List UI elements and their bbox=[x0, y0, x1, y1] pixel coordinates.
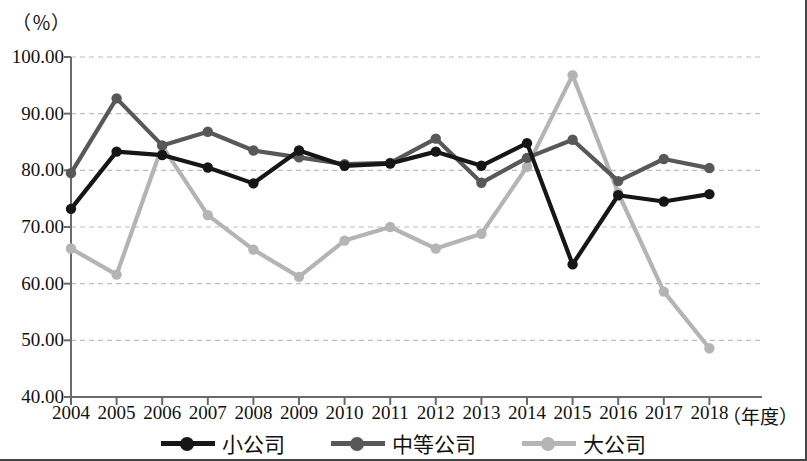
series-layer bbox=[66, 70, 715, 354]
x-tick-label: 2009 bbox=[280, 402, 318, 424]
x-tick-label: 2014 bbox=[508, 402, 546, 424]
x-tick-label: 2008 bbox=[234, 402, 272, 424]
chart-legend: 小公司中等公司大公司 bbox=[0, 428, 807, 458]
x-tick-label: 2005 bbox=[98, 402, 136, 424]
x-tick-label: 2015 bbox=[554, 402, 592, 424]
x-tick-label: 2013 bbox=[462, 402, 500, 424]
series-2 bbox=[66, 70, 715, 354]
line-chart: （％） 100.0090.0080.0070.0060.0050.0040.00… bbox=[0, 0, 807, 461]
legend-label: 大公司 bbox=[583, 428, 646, 458]
legend-marker-icon bbox=[331, 436, 385, 450]
x-tick-label: 2011 bbox=[372, 402, 409, 424]
legend-item-1[interactable]: 中等公司 bbox=[331, 428, 476, 458]
x-tick-label: 2004 bbox=[52, 402, 90, 424]
legend-marker-icon bbox=[161, 436, 215, 450]
x-tick-label: 2017 bbox=[645, 402, 683, 424]
x-tick-label: 2006 bbox=[143, 402, 181, 424]
legend-marker-icon bbox=[522, 436, 576, 450]
x-tick-label: 2016 bbox=[599, 402, 637, 424]
x-tick-label: 2007 bbox=[189, 402, 227, 424]
x-tick-label: 2012 bbox=[417, 402, 455, 424]
x-tick-label: 2010 bbox=[326, 402, 364, 424]
series-0 bbox=[66, 138, 715, 270]
legend-item-0[interactable]: 小公司 bbox=[161, 428, 285, 458]
legend-item-2[interactable]: 大公司 bbox=[522, 428, 646, 458]
legend-label: 中等公司 bbox=[392, 428, 476, 458]
x-axis-unit-label: （年度） bbox=[722, 402, 798, 429]
series-1 bbox=[66, 93, 715, 188]
legend-label: 小公司 bbox=[222, 428, 285, 458]
plot-area bbox=[0, 0, 807, 461]
